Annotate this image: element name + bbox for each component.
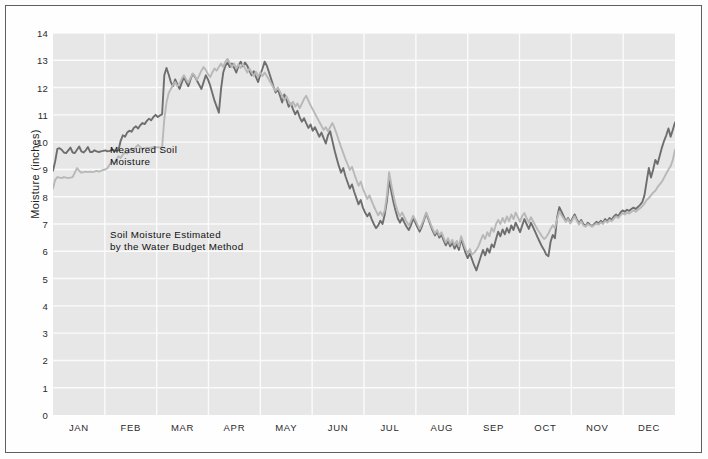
figure-root: Moisture (inches) 14131211109876543210 M… — [0, 0, 708, 459]
x-tick-sep: SEP — [483, 422, 504, 433]
y-axis-tick-labels: 14131211109876543210 — [22, 33, 48, 415]
x-axis-tick-labels: JANFEBMARAPRMAYJUNJULAUGSEPOCTNOVDEC — [53, 418, 675, 440]
x-tick-dec: DEC — [638, 422, 660, 433]
x-tick-jan: JAN — [69, 422, 89, 433]
y-tick-5: 5 — [43, 273, 48, 284]
y-tick-1: 1 — [43, 382, 48, 393]
x-tick-aug: AUG — [430, 422, 453, 433]
y-tick-7: 7 — [43, 219, 48, 230]
water-budget-method-label: Soil Moisture Estimated by the Water Bud… — [110, 229, 243, 252]
y-tick-2: 2 — [43, 355, 48, 366]
x-tick-may: MAY — [275, 422, 297, 433]
x-tick-nov: NOV — [586, 422, 609, 433]
plot-area: Measured Soil Moisture Soil Moisture Est… — [53, 33, 675, 415]
y-tick-13: 13 — [37, 55, 48, 66]
y-tick-8: 8 — [43, 191, 48, 202]
x-tick-apr: APR — [224, 422, 246, 433]
x-tick-jun: JUN — [328, 422, 349, 433]
y-tick-11: 11 — [38, 109, 48, 120]
y-tick-10: 10 — [37, 137, 48, 148]
y-tick-9: 9 — [43, 164, 48, 175]
y-tick-0: 0 — [43, 410, 48, 421]
x-tick-feb: FEB — [120, 422, 141, 433]
x-tick-jul: JUL — [380, 422, 399, 433]
y-tick-6: 6 — [43, 246, 48, 257]
data-series-lines — [53, 33, 675, 415]
x-tick-mar: MAR — [171, 422, 194, 433]
measured-soil-moisture-label: Measured Soil Moisture — [110, 144, 177, 167]
y-tick-4: 4 — [43, 300, 48, 311]
x-tick-oct: OCT — [534, 422, 556, 433]
y-tick-14: 14 — [37, 28, 48, 39]
y-tick-12: 12 — [37, 82, 48, 93]
y-tick-3: 3 — [43, 328, 48, 339]
